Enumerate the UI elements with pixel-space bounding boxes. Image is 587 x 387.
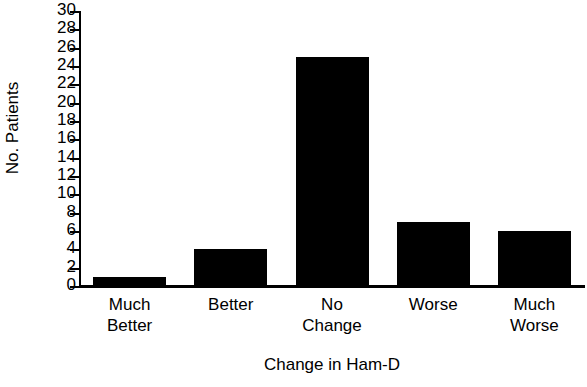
bar [296,57,369,286]
y-axis-tick-label: 28 [57,19,76,37]
y-axis-tick-label: 18 [57,111,76,129]
y-axis-tick-label: 24 [57,56,76,74]
y-axis-tick-label: 2 [67,258,76,276]
y-axis-tick-label: 10 [57,184,76,202]
bar [93,277,166,286]
y-axis-tick-label: 30 [57,1,76,19]
y-axis-tick-label: 22 [57,74,76,92]
bar [498,231,571,286]
bar [194,249,267,286]
bar-chart: No. Patients 024681012141618202224262830… [0,0,587,387]
y-axis-tick-label: 4 [67,239,76,257]
x-axis-tick-label: Much Worse [484,294,585,336]
y-axis-tick-label: 8 [67,203,76,221]
x-axis-tick-label: No Change [281,294,382,336]
y-axis-tick-label: 16 [57,129,76,147]
y-axis-tick-label: 12 [57,166,76,184]
x-axis-tick-label: Much Better [79,294,180,336]
x-axis-tick-label: Better [180,294,281,315]
plot-area: 024681012141618202224262830 [79,11,585,286]
y-axis-tick-label: 14 [57,148,76,166]
bar [397,222,470,286]
y-axis-tick-label: 26 [57,38,76,56]
x-axis-tick-label: Worse [383,294,484,315]
y-axis-tick-label: 0 [67,276,76,294]
y-axis-title-text: No. Patients [3,0,23,258]
y-axis-tick-label: 20 [57,93,76,111]
x-axis-title: Change in Ham-D [79,355,585,375]
y-axis-tick-label: 6 [67,221,76,239]
